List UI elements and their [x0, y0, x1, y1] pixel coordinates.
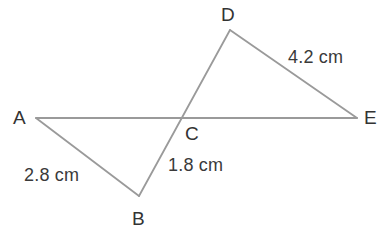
measure-label-ab: 2.8 cm — [24, 166, 79, 184]
measure-label-bc: 1.8 cm — [168, 156, 223, 174]
figure-canvas — [0, 0, 390, 237]
vertex-label-e: E — [364, 108, 377, 127]
vertex-label-b: B — [132, 209, 145, 228]
vertex-label-d: D — [221, 5, 235, 24]
geometry-diagram: A B C D E 2.8 cm 1.8 cm 4.2 cm — [0, 0, 390, 237]
segment-de — [230, 30, 357, 118]
vertex-label-c: C — [185, 124, 199, 143]
measure-label-de: 4.2 cm — [288, 48, 343, 66]
vertex-label-a: A — [13, 108, 26, 127]
